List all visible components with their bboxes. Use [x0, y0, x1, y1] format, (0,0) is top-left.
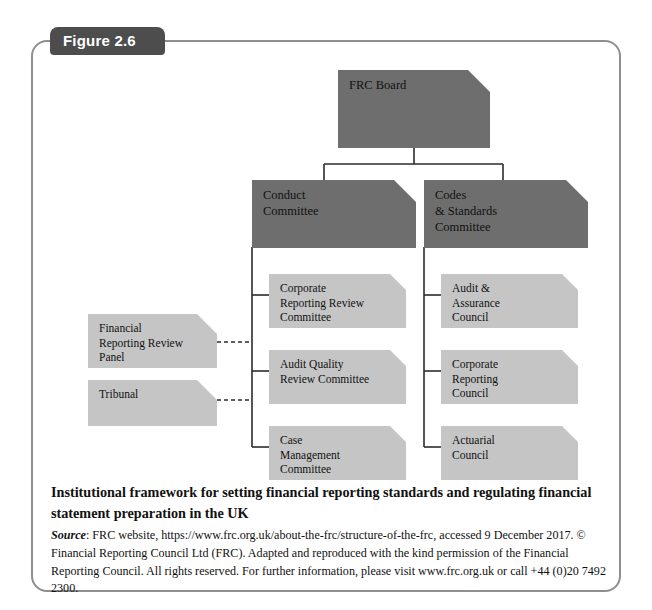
node-codes-standards-committee-label: Codes & Standards Committee: [435, 187, 497, 235]
node-conduct-committee[interactable]: Conduct Committee: [252, 180, 416, 248]
node-tribunal[interactable]: Tribunal: [88, 380, 217, 426]
source-label: Source: [51, 528, 86, 542]
node-frc-board[interactable]: FRC Board: [338, 70, 490, 148]
node-tribunal-label: Tribunal: [99, 387, 138, 402]
figure-source: Source: FRC website, https://www.frc.org…: [51, 527, 607, 598]
node-case-management-committee-label: Case Management Committee: [280, 433, 340, 477]
node-audit-quality-review-committee[interactable]: Audit Quality Review Committee: [269, 350, 406, 404]
node-actuarial-council[interactable]: Actuarial Council: [441, 426, 578, 480]
figure-caption: Institutional framework for setting fina…: [51, 482, 607, 523]
node-corporate-reporting-review-committee[interactable]: Corporate Reporting Review Committee: [269, 274, 406, 328]
node-conduct-committee-label: Conduct Committee: [263, 187, 319, 219]
node-frc-board-label: FRC Board: [349, 77, 406, 93]
node-financial-reporting-review-panel-label: Financial Reporting Review Panel: [99, 321, 183, 365]
source-text: : FRC website, https://www.frc.org.uk/ab…: [51, 528, 606, 595]
node-actuarial-council-label: Actuarial Council: [452, 433, 495, 462]
node-audit-assurance-council-label: Audit & Assurance Council: [452, 281, 500, 325]
node-audit-quality-review-committee-label: Audit Quality Review Committee: [280, 357, 369, 386]
node-corporate-reporting-council-label: Corporate Reporting Council: [452, 357, 498, 401]
node-corporate-reporting-review-committee-label: Corporate Reporting Review Committee: [280, 281, 364, 325]
node-codes-standards-committee[interactable]: Codes & Standards Committee: [424, 180, 588, 248]
figure-number-tab: Figure 2.6: [50, 27, 165, 55]
node-audit-assurance-council[interactable]: Audit & Assurance Council: [441, 274, 578, 328]
node-financial-reporting-review-panel[interactable]: Financial Reporting Review Panel: [88, 314, 217, 368]
node-case-management-committee[interactable]: Case Management Committee: [269, 426, 406, 480]
node-corporate-reporting-council[interactable]: Corporate Reporting Council: [441, 350, 578, 404]
figure-frame: FRC Board Conduct Committee Codes & Stan…: [31, 40, 621, 592]
